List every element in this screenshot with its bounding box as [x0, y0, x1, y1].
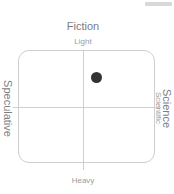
axis-horizontal [13, 107, 161, 108]
data-point[interactable] [91, 72, 102, 83]
chart-canvas: Fiction Light Speculative Science Scient… [0, 0, 174, 194]
axis-vertical [83, 50, 84, 170]
axis-label-right-inner: Scientific [154, 78, 162, 138]
chart-title: Fiction [0, 21, 166, 32]
axis-label-top: Light [0, 38, 166, 46]
axis-label-left: Speculative [2, 79, 13, 139]
toolbar-strip [145, 2, 172, 6]
axis-label-bottom: Heavy [0, 177, 166, 185]
